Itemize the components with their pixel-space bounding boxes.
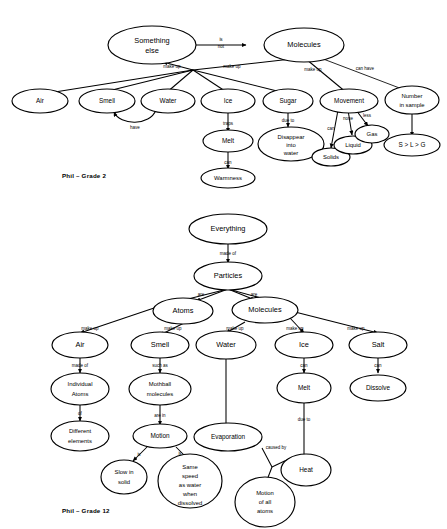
node-water-bottom[interactable]: Water (196, 331, 256, 359)
node-label-molecules-top: Molecules (287, 40, 321, 49)
edge-label-make-up-1: make up (163, 64, 181, 69)
node-melt-top[interactable]: Melt (203, 130, 253, 152)
caption-grade2: Phil – Grade 2 (62, 172, 106, 179)
node-label-gas: Gas (367, 131, 378, 137)
node-label-dissolve: Dissolve (366, 384, 391, 391)
node-label-melt-top: Melt (222, 137, 234, 144)
node-label-atoms: Atoms (173, 306, 194, 315)
concept-map-grade12: made of are are make up make up make up … (0, 205, 447, 529)
node-sugar-top[interactable]: Sugar (263, 89, 313, 113)
node-movement[interactable]: Movement (320, 89, 378, 113)
node-motion[interactable]: Motion (133, 424, 187, 448)
edge-label-can-have: make up (304, 67, 322, 72)
node-label-particles: Particles (214, 271, 243, 280)
edge-label-are-2: are (251, 292, 258, 297)
edge-molecules-to-number (318, 57, 410, 92)
node-molecules-top[interactable]: Molecules (264, 28, 344, 62)
node-label-water-top: Water (160, 97, 178, 104)
edge-evaporation-junction (262, 448, 272, 467)
edge-label-salt-can: can (374, 363, 382, 368)
node-label-individual-atoms-l1: Individual (68, 381, 93, 387)
node-different-elements[interactable]: Different elements (51, 421, 109, 451)
node-mothball-molecules[interactable]: Mothball molecules (129, 373, 191, 405)
edge-label-have: can have (356, 66, 375, 71)
node-label-ice-top: Ice (224, 97, 233, 104)
node-label-solids: Solids (323, 154, 339, 160)
node-label-same-speed-l5: dissolved (178, 500, 203, 506)
edge-label-most: less (363, 113, 372, 118)
edge-label-melt-due-to: due to (298, 417, 311, 422)
node-water-top[interactable]: Water (141, 89, 195, 113)
edge-label-are-1: are (198, 292, 205, 297)
edge-label-sugar-can: due to (282, 118, 295, 123)
node-label-same-speed-l4: when (182, 491, 197, 497)
node-label-air-bottom: Air (75, 340, 85, 349)
node-label-motion-all-l1: Motion (256, 490, 274, 496)
node-everything[interactable]: Everything (189, 214, 267, 244)
node-label-something-else-l2: else (145, 46, 159, 55)
node-label-disappear-l1: Disappear (278, 134, 305, 140)
node-label-inequality: S > L > G (398, 141, 425, 148)
node-air-bottom[interactable]: Air (52, 332, 108, 358)
node-label-same-speed-l3: as water (179, 482, 201, 488)
node-label-slow-in-solid-l2: solid (118, 479, 130, 485)
node-label-motion: Motion (150, 432, 170, 439)
node-label-disappear-l3: water (283, 150, 298, 156)
edge-label-make-up-water: make up (226, 326, 244, 331)
node-label-movement: Movement (334, 97, 364, 104)
node-molecules-bottom[interactable]: Molecules (232, 297, 298, 323)
edge-label-make-up-air: make up (81, 326, 99, 331)
node-atoms[interactable]: Atoms (153, 298, 213, 324)
node-ice-top[interactable]: Ice (201, 89, 255, 113)
node-label-melt-bottom: Melt (298, 384, 310, 391)
node-label-different-elements-l1: Different (69, 428, 92, 434)
node-evaporation[interactable]: Evaporation (194, 423, 262, 451)
node-label-mothball-l1: Mothball (149, 381, 171, 387)
node-motion-of-all-atoms[interactable]: Motion of all atoms (235, 477, 295, 527)
node-heat[interactable]: Heat (281, 454, 331, 486)
edge-label-are-in: are in (154, 413, 166, 418)
node-label-mothball-l2: molecules (147, 391, 174, 397)
node-label-liquid: Liquid (345, 142, 361, 148)
edge-label-due-to: can (224, 160, 232, 165)
node-individual-atoms[interactable]: Individual Atoms (51, 373, 109, 405)
edge-label-made-of-top: made of (220, 251, 237, 256)
node-label-smell-bottom: Smell (151, 340, 170, 349)
node-melt-bottom[interactable]: Melt (277, 373, 331, 403)
node-gas[interactable]: Gas (355, 125, 389, 143)
edge-label-less: none (343, 116, 354, 121)
node-label-water-bottom: Water (216, 340, 236, 349)
node-air-top[interactable]: Air (12, 89, 68, 113)
node-smell-bottom[interactable]: Smell (131, 332, 189, 358)
node-smell-top[interactable]: Smell (79, 89, 135, 113)
node-label-heat: Heat (299, 466, 313, 473)
node-number-in-sample[interactable]: Number in sample (385, 86, 439, 114)
node-label-different-elements-l2: elements (68, 438, 92, 444)
node-same-speed[interactable]: Same speed as water when dissolved (158, 454, 222, 508)
nodes-layer: Everything Particles Atoms Molecules Air… (51, 214, 407, 527)
node-inequality[interactable]: S > L > G (384, 134, 440, 156)
node-dissolve[interactable]: Dissolve (350, 375, 406, 401)
node-label-motion-all-l3: atoms (257, 508, 273, 514)
node-ice-bottom[interactable]: Ice (275, 332, 333, 358)
node-slow-in-solid[interactable]: Slow in solid (101, 460, 147, 494)
edge-label-traps: have (130, 125, 140, 130)
node-label-number-l1: Number (402, 93, 423, 99)
node-label-sugar-top: Sugar (279, 97, 297, 105)
node-label-same-speed-l1: Same (182, 464, 198, 470)
node-label-air-top: Air (36, 97, 45, 104)
node-label-molecules-bottom: Molecules (248, 305, 282, 314)
node-label-number-l2: in sample (399, 102, 425, 108)
edge-label-make-up-salt: make up (347, 326, 365, 331)
node-label-evaporation: Evaporation (211, 433, 246, 441)
edge-molecules-to-movement (306, 59, 347, 93)
node-warmness[interactable]: Warmness (201, 168, 255, 188)
node-salt[interactable]: Salt (349, 332, 407, 358)
edge-label-such-as: such as (152, 363, 168, 368)
node-particles[interactable]: Particles (194, 262, 262, 290)
edge-molecules12-to-salt (295, 312, 378, 333)
node-label-warmness: Warmness (214, 175, 242, 181)
edge-label-air-made-of: made of (72, 363, 89, 368)
node-something-else[interactable]: Something else (108, 26, 196, 64)
edge-label-is-not-line1: is (219, 37, 223, 42)
